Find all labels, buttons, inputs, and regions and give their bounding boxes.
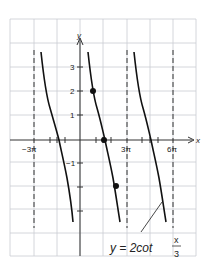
equation-leader-line — [141, 202, 162, 232]
x-tick-6pi: 6π — [167, 145, 177, 154]
x-axis-label: x — [195, 136, 201, 145]
y-tick-2: 2 — [70, 87, 75, 96]
point-zero — [101, 137, 107, 143]
cotangent-graph: x y −3π 3π 6π 3 2 1 −1 y = 2cot x 3 — [0, 0, 205, 273]
x-tick-neg3pi: −3π — [22, 145, 37, 154]
y-axis — [77, 38, 83, 256]
equation-numerator: x — [174, 235, 179, 245]
equation-denominator: 3 — [174, 249, 179, 259]
y-tick-3: 3 — [70, 63, 75, 72]
point-y2 — [90, 88, 96, 94]
y-tick-1: 1 — [70, 111, 75, 120]
highlighted-points — [90, 88, 119, 189]
y-axis-label: y — [76, 31, 82, 40]
point-yneg2 — [113, 183, 119, 189]
x-tick-3pi: 3π — [121, 145, 131, 154]
equation-lhs: y = 2cot — [109, 241, 153, 255]
cotangent-curve — [41, 52, 166, 222]
y-tick-neg1: −1 — [66, 159, 76, 168]
